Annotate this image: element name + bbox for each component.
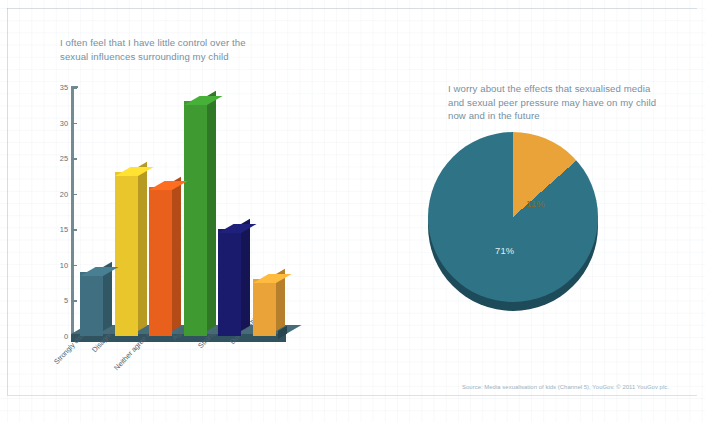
y-axis-tick bbox=[71, 87, 77, 89]
bar-top-face bbox=[218, 224, 257, 233]
bar-side-face bbox=[138, 162, 147, 331]
frame-left-line bbox=[7, 8, 8, 395]
bar-top-face bbox=[115, 167, 154, 176]
y-axis-tick-label: 5 bbox=[42, 296, 68, 305]
bar-front-face bbox=[149, 187, 172, 336]
y-axis-tick bbox=[71, 229, 77, 231]
y-axis-tick bbox=[71, 300, 77, 302]
bar-side-face bbox=[207, 91, 216, 331]
y-axis-line bbox=[71, 87, 74, 336]
frame-bottom-line bbox=[7, 395, 697, 396]
bar-front-face bbox=[115, 172, 138, 336]
chart-page: I often feel that I have little control … bbox=[0, 0, 705, 422]
bar-front-face bbox=[184, 101, 207, 336]
bar-column bbox=[184, 101, 207, 336]
bar-top-face bbox=[149, 181, 188, 190]
bar-front-face bbox=[253, 279, 276, 336]
y-axis-tick-label: 15 bbox=[42, 225, 68, 234]
bar-chart-title: I often feel that I have little control … bbox=[60, 36, 290, 63]
y-axis-tick-label: 10 bbox=[42, 261, 68, 270]
pie-slice-label-amber: 11% bbox=[526, 198, 545, 209]
y-axis-tick bbox=[71, 265, 77, 267]
y-axis-tick bbox=[71, 158, 77, 160]
x-axis-category-labels: Strongly disagreeDisagreeNeither agree n… bbox=[30, 330, 330, 390]
y-axis-tick-label: 35 bbox=[42, 83, 68, 92]
bar-column bbox=[115, 172, 138, 336]
bar-top-face bbox=[184, 96, 223, 105]
y-axis-tick-label: 30 bbox=[42, 119, 68, 128]
y-axis-tick bbox=[71, 194, 77, 196]
y-axis-tick bbox=[71, 123, 77, 125]
y-axis-tick-label: 20 bbox=[42, 190, 68, 199]
bar-side-face bbox=[241, 219, 250, 331]
frame-top-line bbox=[7, 8, 697, 9]
bar-top-face bbox=[253, 274, 292, 283]
bar-column bbox=[253, 279, 276, 336]
pie-disc bbox=[428, 132, 598, 302]
bar-chart: 05101520253035 Strongly disagreeDisagree… bbox=[30, 78, 330, 378]
pie-chart: 11% 71% bbox=[420, 70, 690, 360]
bar-top-face bbox=[80, 267, 119, 276]
pie-graphic: 11% 71% bbox=[428, 132, 598, 302]
y-axis-tick-label: 25 bbox=[42, 154, 68, 163]
bar-front-face bbox=[218, 229, 241, 336]
bar-chart-plot-area: 05101520253035 bbox=[30, 78, 330, 340]
bar-column bbox=[149, 187, 172, 336]
bar-column bbox=[218, 229, 241, 336]
bar-column bbox=[80, 272, 103, 336]
bar-front-face bbox=[80, 272, 103, 336]
pie-slice-label-teal: 71% bbox=[495, 245, 514, 256]
bar-side-face bbox=[172, 176, 181, 331]
source-note: Source: Media sexualisation of kids (Cha… bbox=[462, 384, 669, 390]
